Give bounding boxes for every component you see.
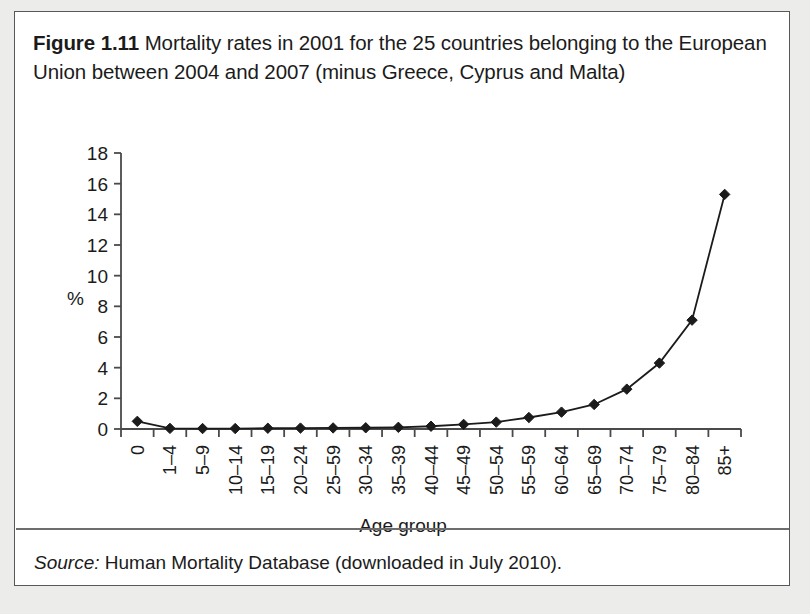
data-series-mortality: [132, 189, 730, 434]
data-point-marker: [230, 423, 240, 433]
y-tick-label: 6: [97, 327, 108, 348]
y-tick-label: 4: [97, 358, 108, 379]
y-tick-label: 14: [87, 204, 109, 225]
data-point-marker: [719, 189, 729, 199]
y-tick-label: 0: [97, 419, 108, 440]
x-tick-label: 0: [128, 445, 148, 455]
data-point-marker: [491, 417, 501, 427]
x-tick-label: 60–64: [552, 445, 572, 495]
y-tick-label: 16: [87, 174, 108, 195]
x-tick-label: 45–49: [454, 445, 474, 495]
x-tick-label: 10–14: [226, 445, 246, 495]
x-tick-label: 65–69: [585, 445, 605, 495]
data-point-marker: [361, 423, 371, 433]
x-tick-label: 20–24: [291, 445, 311, 495]
x-tick-label: 40–44: [422, 445, 442, 495]
x-tick-label: 85+: [715, 445, 735, 476]
x-tick-label: 70–74: [617, 445, 637, 495]
x-axis-title: Age group: [15, 515, 791, 537]
x-tick-label: 25–59: [324, 445, 344, 495]
chart-plot-area: 024681012141618 01–45–910–1415–1920–2425…: [15, 12, 791, 587]
source-text: Human Mortality Database (downloaded in …: [105, 552, 562, 573]
x-tick-label: 5–9: [193, 445, 213, 475]
x-tick-label: 35–39: [389, 445, 409, 495]
data-point-marker: [295, 423, 305, 433]
y-tick-label: 2: [97, 388, 108, 409]
source-divider: [16, 528, 789, 530]
y-tick-label: 12: [87, 235, 108, 256]
x-tick-label: 75–79: [650, 445, 670, 495]
data-point-marker: [132, 416, 142, 426]
y-tick-label: 8: [97, 296, 108, 317]
data-point-marker: [458, 419, 468, 429]
x-tick-label: 55–59: [519, 445, 539, 495]
figure-page: Figure 1.11 Mortality rates in 2001 for …: [0, 0, 810, 614]
x-tick-label: 1–4: [160, 445, 180, 475]
data-point-marker: [524, 412, 534, 422]
y-tick-label: 18: [87, 143, 108, 164]
figure-frame: Figure 1.11 Mortality rates in 2001 for …: [14, 11, 790, 586]
source-note: Source: Human Mortality Database (downlo…: [34, 552, 562, 574]
data-point-marker: [197, 423, 207, 433]
data-point-marker: [556, 407, 566, 417]
source-label: Source:: [34, 552, 99, 573]
x-tick-label: 50–54: [487, 445, 507, 495]
x-tick-label: 80–84: [683, 445, 703, 495]
x-tick-label: 15–19: [258, 445, 278, 495]
y-tick-label: 10: [87, 266, 108, 287]
x-tick-label: 30–34: [356, 445, 376, 495]
data-point-marker: [263, 423, 273, 433]
data-point-marker: [328, 423, 338, 433]
data-point-marker: [165, 423, 175, 433]
data-point-marker: [589, 399, 599, 409]
y-axis: 024681012141618: [87, 143, 121, 440]
mortality-line-chart: 024681012141618 01–45–910–1415–1920–2425…: [15, 12, 791, 587]
y-axis-title: %: [67, 288, 84, 310]
x-axis: 01–45–910–1415–1920–2425–5930–3435–3940–…: [121, 429, 741, 495]
data-point-marker: [393, 422, 403, 432]
